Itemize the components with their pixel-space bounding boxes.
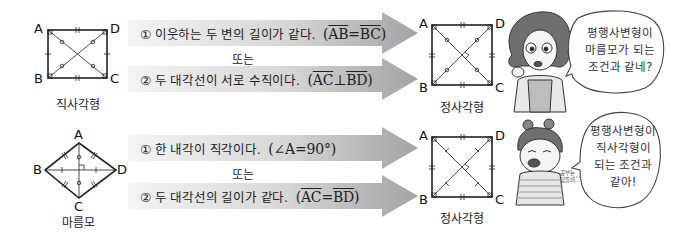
shape-label-rectangle: 직사각형 [38, 95, 118, 112]
condition-top-1: ① 이웃하는 두 변의 길이가 같다. (AB=BC) [140, 24, 386, 43]
condition-math: (AB=BC) [323, 26, 386, 42]
rhombus-diagram [45, 143, 116, 198]
vertex-label-C: C [110, 71, 119, 86]
or-connector-bottom: 또는 [232, 165, 254, 182]
condition-math: (AC⊥BD) [307, 72, 372, 88]
rectangle-diagram [45, 27, 110, 81]
vertex-label-A: A [419, 128, 428, 143]
vertex-label-A: A [74, 127, 83, 142]
condition-text: 한 내각이 직각이다. [155, 142, 261, 157]
condition-top-2: ② 두 대각선이 서로 수직이다. (AC⊥BD) [140, 70, 373, 89]
condition-bottom-2: ② 두 대각선의 길이가 같다. (AC=BD) [140, 187, 359, 206]
condition-number: ② [140, 73, 151, 88]
vertex-label-B: B [419, 192, 428, 207]
condition-bottom-1: ① 한 내각이 직각이다. (∠A=90°) [140, 139, 336, 158]
shape-label-square: 정사각형 [422, 98, 502, 115]
girl-character-illustration [516, 119, 564, 205]
condition-math: (∠A=90°) [268, 141, 336, 157]
speech-text-bottom: 평행사변형이 직사각형이 되는 조건과 같아! [584, 123, 662, 191]
speech-line: 조건과 같네? [578, 59, 662, 76]
condition-math: (AC=BD) [296, 189, 360, 205]
square-diagram-top [429, 22, 495, 88]
speech-line: 평행사변형이 [584, 123, 662, 140]
speech-text-top: 평행사변형이 마름모가 되는 조건과 같네? [578, 25, 662, 76]
square-diagram-bottom [429, 134, 495, 200]
condition-text: 두 대각선이 서로 수직이다. [155, 73, 300, 88]
speech-line: 직사각형이 [584, 140, 662, 157]
vertex-label-A: A [34, 21, 43, 36]
aside-line: 힘들어… [560, 177, 581, 184]
vertex-label-D: D [117, 162, 127, 177]
vertex-label-C: C [74, 199, 83, 214]
condition-text: 이웃하는 두 변의 길이가 같다. [155, 27, 315, 42]
aside-line: 공부는 [560, 170, 581, 177]
vertex-label-B: B [419, 80, 428, 95]
condition-text: 두 대각선의 길이가 같다. [155, 190, 288, 205]
vertex-label-C: C [495, 192, 504, 207]
vertex-label-D: D [495, 128, 505, 143]
vertex-label-C: C [495, 80, 504, 95]
vertex-label-B: B [33, 162, 42, 177]
shape-label-square: 정사각형 [422, 209, 502, 226]
speech-line: 되는 조건과 [584, 157, 662, 174]
condition-number: ① [140, 142, 151, 157]
shape-label-rhombus: 마름모 [38, 213, 118, 230]
vertex-label-D: D [110, 21, 120, 36]
condition-number: ① [140, 27, 151, 42]
speech-line: 같아! [584, 174, 662, 191]
speech-line: 평행사변형이 [578, 25, 662, 42]
aside-text: 공부는 힘들어… [560, 170, 581, 184]
speech-line: 마름모가 되는 [578, 42, 662, 59]
condition-number: ② [140, 190, 151, 205]
vertex-label-B: B [34, 71, 43, 86]
or-connector-top: 또는 [232, 50, 254, 67]
vertex-label-A: A [419, 16, 428, 31]
vertex-label-D: D [495, 16, 505, 31]
woman-character-illustration [509, 12, 570, 112]
